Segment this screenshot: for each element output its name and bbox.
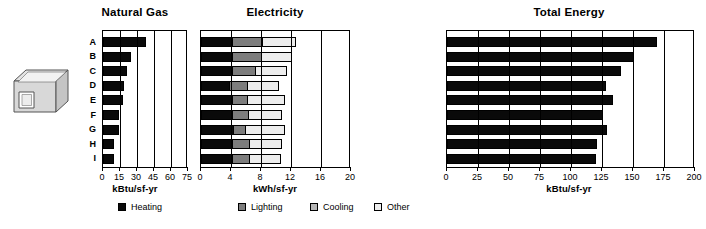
category-label-I: I [82,153,96,163]
legend-swatch-other-icon [374,203,382,211]
bar-segment-heating [201,110,233,120]
category-label-G: G [82,124,96,134]
category-label-E: E [82,95,96,105]
bar-segment-lighting [232,37,263,47]
bar-segment-other [249,154,281,164]
axis-tick-mark [570,167,571,171]
bar-segment-total [447,125,607,135]
axis-tick-label: 0 [431,172,461,182]
bar-segment-lighting [232,52,262,62]
axis-tick-label: 20 [335,172,365,182]
axis-tick-label: 50 [493,172,523,182]
gridline [154,31,155,167]
bar-row [201,125,285,135]
legend-item-cooling[interactable]: Cooling [310,202,354,212]
gridline [120,31,121,167]
bar-row [447,66,621,76]
category-label-C: C [82,66,96,76]
axis-tick-label: 25 [462,172,492,182]
chart-title-natural-gas: Natural Gas [80,5,190,19]
axis-title-electricity: kWh/sf-yr [196,183,354,194]
gridline [664,31,665,167]
bar-segment-lighting [232,110,249,120]
gridline [171,31,172,167]
axis-tick-mark [200,167,201,171]
bar-segment-lighting [232,66,255,76]
axis-tick-label: 125 [586,172,616,182]
axis-tick-mark [153,167,154,171]
bar-segment-total [447,95,613,105]
gridline [231,31,232,167]
category-label-F: F [82,110,96,120]
bar-segment-other [245,125,286,135]
gridline [633,31,634,167]
bar-segment-other [255,66,287,76]
axis-tick-mark [119,167,120,171]
gridline [602,31,603,167]
axis-tick-mark [477,167,478,171]
bar-segment-total [447,139,597,149]
bar-row [447,154,596,164]
category-label-H: H [82,139,96,149]
axis-tick-mark [539,167,540,171]
bar-segment-heating [201,66,233,76]
chart-panel-natural-gas: Natural Gas 01530456075 kBtu/sf-yr ABCDE… [80,0,190,200]
bar-segment-total [447,110,603,120]
building-box-icon [6,56,76,124]
axis-tick-label: 4 [215,172,245,182]
bar-segment-other [247,95,285,105]
axis-tick-mark [136,167,137,171]
axis-tick-label: 150 [617,172,647,182]
bar-segment-heating [103,154,114,164]
bar-segment-total [447,81,606,91]
legend-label: Heating [131,202,162,212]
gridline [540,31,541,167]
legend-item-heating[interactable]: Heating [118,202,162,212]
bar-row [447,110,603,120]
axis-tick-label: 8 [245,172,275,182]
axis-tick-mark [320,167,321,171]
bar-row [447,125,607,135]
bar-segment-other [248,110,282,120]
bar-row [447,81,606,91]
bar-row [103,66,127,76]
bar-row [103,154,114,164]
legend-label: Other [387,202,410,212]
bar-segment-lighting [232,95,249,105]
bar-segment-heating [201,95,233,105]
category-label-B: B [82,51,96,61]
chart-panel-electricity: Electricity 048121620 kWh/sf-yr [196,0,354,200]
legend-item-lighting[interactable]: Lighting [238,202,283,212]
bar-segment-heating [103,125,119,135]
axis-tick-label: 175 [648,172,678,182]
axis-tick-label: 100 [555,172,585,182]
bar-segment-heating [201,37,233,47]
bar-segment-heating [201,125,234,135]
gridline [571,31,572,167]
axis-tick-mark [694,167,695,171]
bar-segment-lighting [229,81,248,91]
bar-row [201,52,292,62]
axis-tick-label: 16 [305,172,335,182]
legend-item-other[interactable]: Other [374,202,410,212]
category-label-D: D [82,80,96,90]
axis-tick-label: 75 [524,172,554,182]
bar-row [201,95,285,105]
chart-title-total-energy: Total Energy [440,5,698,19]
bar-row [201,37,296,47]
plot-area-natural-gas [102,30,187,168]
axis-tick-mark [230,167,231,171]
gridline [261,31,262,167]
axis-tick-label: 0 [185,172,215,182]
axis-tick-mark [632,167,633,171]
bar-segment-heating [201,154,233,164]
bar-segment-heating [201,139,233,149]
axis-title-natural-gas: kBtu/sf-yr [80,183,190,194]
bar-segment-other [249,139,282,149]
bar-segment-heating [103,110,119,120]
axis-tick-mark [187,167,188,171]
bar-row [103,110,119,120]
bar-row [103,139,114,149]
bar-segment-lighting [232,154,250,164]
